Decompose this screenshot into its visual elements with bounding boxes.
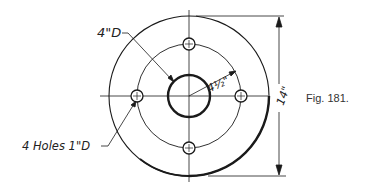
- hub-leader: [122, 33, 174, 82]
- technical-drawing: 4"D 4½" 14" 4 Holes 1"D Fig. 181.: [0, 0, 373, 189]
- outer-diameter-label: 14": [274, 85, 293, 107]
- hub-diameter-label: 4"D: [97, 25, 121, 40]
- bolt-radius-label: 4½": [205, 74, 231, 95]
- figure-caption: Fig. 181.: [306, 92, 349, 104]
- holes-leader: [101, 101, 136, 146]
- holes-label: 4 Holes 1"D: [22, 139, 90, 153]
